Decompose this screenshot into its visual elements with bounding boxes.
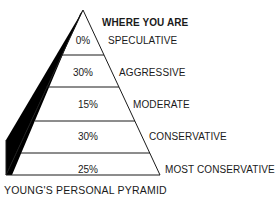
tier-label-moderate: MODERATE [133,99,190,110]
tier-label-conservative: CONSERVATIVE [149,131,227,142]
tier-percent-aggressive: 30% [63,67,103,78]
tier-label-most-conservative: MOST CONSERVATIVE [165,164,275,175]
tier-label-aggressive: AGGRESSIVE [119,67,186,78]
tier-percent-conservative: 30% [68,131,108,142]
tier-percent-most-conservative: 25% [68,164,108,175]
tier-label-speculative: SPECULATIVE [108,35,177,46]
tier-percent-speculative: 0% [63,35,103,46]
tier-percent-moderate: 15% [68,99,108,110]
diagram-title: WHERE YOU ARE [102,17,188,28]
diagram-caption: YOUNG'S PERSONAL PYRAMID [4,184,167,196]
